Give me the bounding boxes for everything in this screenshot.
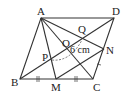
label-n: N: [106, 44, 114, 56]
label-b: B: [11, 76, 18, 88]
label-a: A: [37, 5, 45, 17]
label-o: O: [62, 37, 70, 49]
label-p: P: [42, 51, 48, 63]
geometry-diagram: A D B C M N O P Q 6 cm: [0, 0, 129, 95]
label-c: C: [93, 81, 100, 93]
label-d: D: [112, 5, 120, 17]
label-m: M: [51, 81, 61, 93]
measure-label: 6 cm: [70, 44, 90, 55]
label-q: Q: [78, 23, 86, 35]
